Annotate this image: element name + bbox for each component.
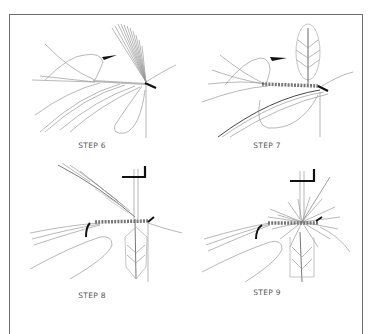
step-label: STEP 7 <box>253 141 281 150</box>
hook-point <box>270 57 287 61</box>
hook-eye <box>148 217 154 222</box>
hook-bend <box>86 223 90 237</box>
hook-bend <box>256 225 262 239</box>
fly-body <box>95 221 148 222</box>
panel-step-7: STEP 7 <box>190 0 379 157</box>
bobbin-holder <box>122 166 145 177</box>
step-label: STEP 6 <box>78 141 106 150</box>
panel-step-6: STEP 6 <box>0 0 190 157</box>
fly-step-7-illustration <box>190 0 379 157</box>
fly-step-6-illustration <box>0 0 190 157</box>
panel-step-9: STEP 9 <box>190 157 379 314</box>
hook-eye <box>316 217 322 221</box>
bobbin-holder <box>290 169 314 181</box>
hook-eye <box>145 83 156 88</box>
fly-step-9-illustration <box>190 157 379 314</box>
panel-step-8: STEP 8 <box>0 157 190 314</box>
step-label: STEP 9 <box>253 288 281 297</box>
hook-point <box>102 55 117 60</box>
fly-body <box>262 84 318 86</box>
step-label: STEP 8 <box>78 291 106 300</box>
